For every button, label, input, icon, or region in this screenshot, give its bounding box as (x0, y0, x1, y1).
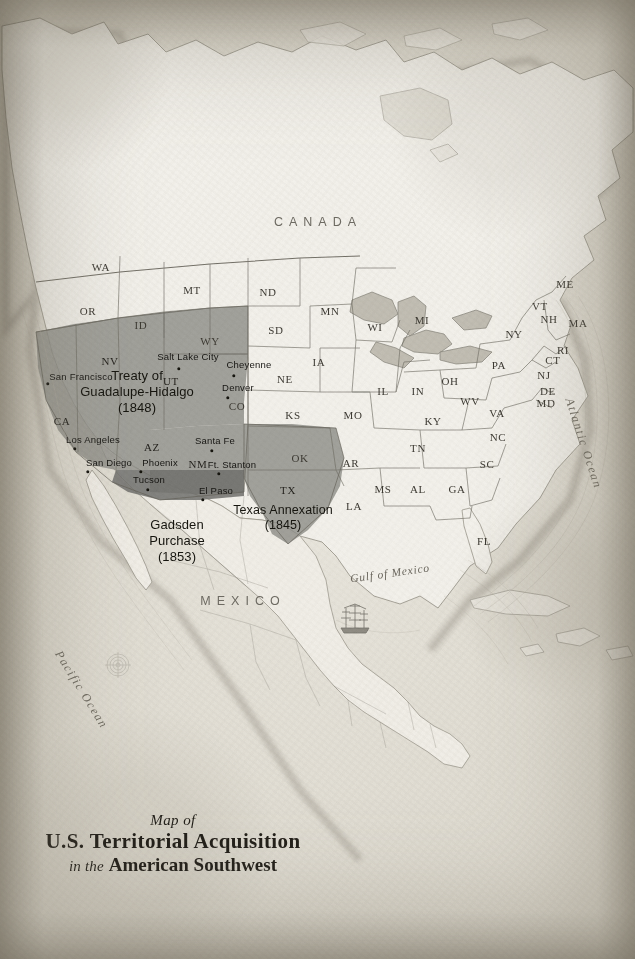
title-subtitle-italic: in the (69, 858, 104, 874)
page-title: U.S. Territorial Acquisition (28, 830, 318, 853)
title-subtitle-bold: American Southwest (109, 854, 277, 875)
map-title-block: Map of U.S. Territorial Acquisition in t… (28, 812, 318, 876)
title-subtitle: in the American Southwest (28, 854, 318, 876)
map-canvas: CANADAMEXICO Pacific OceanAtlantic Ocean… (0, 0, 635, 959)
title-prefix: Map of (28, 812, 318, 829)
